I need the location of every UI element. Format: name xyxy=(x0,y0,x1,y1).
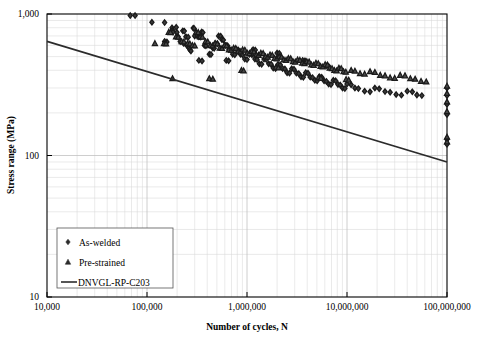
legend-label-as-welded: As-welded xyxy=(79,238,120,248)
x-tick-label: 10,000,000 xyxy=(326,302,369,312)
legend-label-design-line: DNVGL-RP-C203 xyxy=(78,278,150,288)
x-tick-label: 10,000 xyxy=(34,302,60,312)
x-tick-label: 1,000,000 xyxy=(228,302,266,312)
chart-legend: As-welded Pre-strained DNVGL-RP-C203 xyxy=(57,228,173,288)
y-tick-label: 10 xyxy=(30,292,40,302)
y-tick-label: 100 xyxy=(25,151,40,161)
y-axis-title: Stress range (MPa) xyxy=(6,116,17,194)
chart-canvas: 10,000100,0001,000,00010,000,000100,000,… xyxy=(0,0,477,338)
fatigue-sn-chart: 10,000100,0001,000,00010,000,000100,000,… xyxy=(0,0,477,338)
x-tick-label: 100,000 xyxy=(132,302,163,312)
x-axis-title: Number of cycles, N xyxy=(206,322,288,332)
x-tick-label: 100,000,000 xyxy=(423,302,471,312)
y-tick-label: 1,000 xyxy=(18,9,40,19)
legend-label-pre-strained: Pre-strained xyxy=(79,258,125,268)
